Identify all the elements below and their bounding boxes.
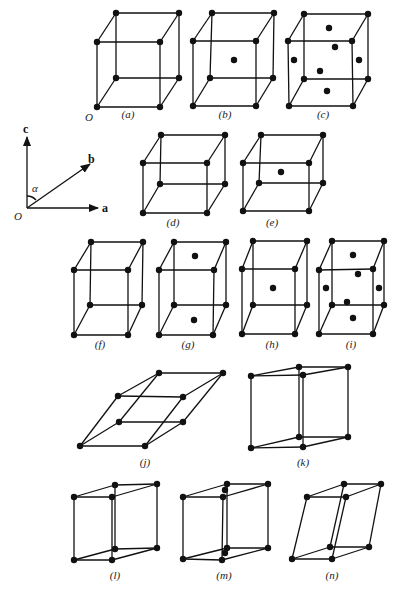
lattice-point-corner xyxy=(320,180,326,186)
cell-edge xyxy=(352,41,353,106)
cell-edge xyxy=(309,183,323,211)
lattice-point-corner xyxy=(253,103,259,109)
cell-edge xyxy=(193,78,210,106)
lattice-point-corner xyxy=(239,331,245,337)
cell-label-e: (e) xyxy=(266,216,279,229)
lattice-point-corner xyxy=(71,494,77,500)
lattice-point-corner xyxy=(140,160,146,166)
cell-edge xyxy=(303,367,348,375)
axes-diagram: c b a α O xyxy=(14,122,108,222)
cell-edge xyxy=(319,241,332,270)
lattice-point-corner xyxy=(209,10,215,16)
cell-edge xyxy=(143,135,161,163)
cell-edge xyxy=(74,549,115,560)
cell-edge xyxy=(243,135,261,163)
lattice-point-centred xyxy=(376,285,382,291)
unit-cell-l: (l) xyxy=(71,481,160,582)
cell-edge xyxy=(295,241,307,269)
cell-edge xyxy=(251,447,303,448)
unit-cell-f: (f) xyxy=(71,239,146,351)
a-axis-label: a xyxy=(102,201,108,215)
lattice-point-corner xyxy=(240,208,246,214)
lattice-point-corner xyxy=(109,557,115,563)
cell-edge xyxy=(90,242,91,305)
lattice-point-corner xyxy=(329,556,335,562)
lattice-point-corner xyxy=(271,10,277,16)
lattice-point-corner xyxy=(190,38,196,44)
lattice-point-corner xyxy=(327,544,333,550)
lattice-point-corner xyxy=(176,10,182,16)
cell-label-h: (h) xyxy=(266,338,279,351)
c-axis-label: c xyxy=(23,122,29,136)
lattice-point-corner xyxy=(171,302,177,308)
cell-edge xyxy=(118,373,159,396)
lattice-point-corner xyxy=(207,75,213,81)
cell-edge xyxy=(160,13,179,42)
lattice-point-corner xyxy=(248,445,254,451)
cell-edge xyxy=(193,13,212,41)
lattice-point-corner xyxy=(113,75,119,81)
cell-edge xyxy=(309,135,323,163)
lattice-point-corner xyxy=(71,267,77,273)
lattice-point-corner xyxy=(292,331,298,337)
lattice-point-corner xyxy=(329,302,335,308)
lattice-point-corner xyxy=(156,370,162,376)
cell-edge xyxy=(143,184,160,213)
lattice-point-centred xyxy=(222,487,228,493)
cell-edge xyxy=(214,242,226,270)
lattice-point-corner xyxy=(112,482,118,488)
lattice-point-corner xyxy=(204,210,210,216)
lattice-point-corner xyxy=(142,443,148,449)
unit-cell-k: (k) xyxy=(248,364,351,469)
lattice-point-corner xyxy=(365,11,371,17)
lattice-point-corner xyxy=(300,444,306,450)
lattice-point-centred xyxy=(355,271,361,277)
lattice-point-corner xyxy=(109,494,115,500)
lattice-point-corner xyxy=(256,180,262,186)
cell-edge xyxy=(295,305,307,334)
lattice-point-centred xyxy=(270,285,276,291)
cell-edge xyxy=(288,14,304,41)
origin-label: O xyxy=(14,210,22,222)
cell-edge xyxy=(74,242,91,270)
lattice-point-corner xyxy=(140,239,146,245)
cell-edge xyxy=(118,396,183,397)
lattice-point-corner xyxy=(223,239,229,245)
lattice-point-corner xyxy=(296,434,302,440)
lattice-point-centred xyxy=(324,88,330,94)
lattice-point-corner xyxy=(296,364,302,370)
cell-edge xyxy=(213,305,226,335)
lattice-point-corner xyxy=(378,481,384,487)
cell-edge xyxy=(97,78,116,107)
cell-edge xyxy=(183,559,222,560)
lattice-point-corner xyxy=(320,132,326,138)
lattice-point-corner xyxy=(190,103,196,109)
cell-edge xyxy=(159,242,174,270)
cell-edge xyxy=(273,13,274,78)
lattice-point-corner xyxy=(113,10,119,16)
lattice-point-corner xyxy=(171,239,177,245)
lattice-point-corner xyxy=(219,557,225,563)
cell-edge xyxy=(80,396,118,446)
lattice-point-centred xyxy=(350,315,356,321)
lattice-point-corner xyxy=(286,103,292,109)
lattice-point-centred xyxy=(317,68,323,74)
lattice-point-centred xyxy=(323,285,329,291)
cell-edge xyxy=(115,548,157,549)
cell-edge xyxy=(112,548,157,560)
lattice-point-centred xyxy=(350,252,356,258)
unit-cell-h: (h) xyxy=(239,238,310,351)
lattice-point-corner xyxy=(253,38,259,44)
unit-cells: (a)(b)(c)(d)(e)(f)(g)(h)(i)(j)(k)(l)(m)(… xyxy=(71,10,387,582)
cell-edge xyxy=(183,373,223,397)
lattice-point-corner xyxy=(316,267,322,273)
cell-edge xyxy=(74,305,90,335)
lattice-point-corner xyxy=(211,267,217,273)
cell-label-i: (i) xyxy=(346,338,357,351)
cell-edge xyxy=(223,484,268,497)
lattice-point-centred xyxy=(222,550,228,556)
cell-edge xyxy=(303,437,348,447)
cell-edge xyxy=(128,242,143,270)
cell-edge xyxy=(142,242,143,305)
cell-edge xyxy=(242,241,253,269)
